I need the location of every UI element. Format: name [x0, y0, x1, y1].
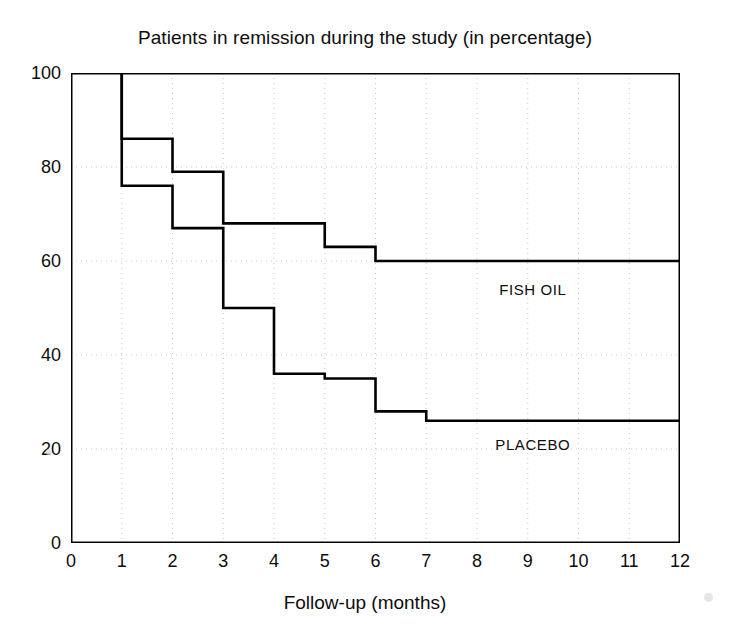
y-tick-label: 60: [11, 251, 61, 272]
x-tick-label: 8: [472, 551, 482, 572]
y-tick-label: 100: [11, 63, 61, 84]
series-label-fish-oil: FISH OIL: [499, 281, 566, 298]
x-tick-label: 11: [620, 551, 639, 572]
y-tick-label: 20: [11, 439, 61, 460]
x-tick-label: 5: [320, 551, 330, 572]
y-tick-label: 80: [11, 157, 61, 178]
series-line-placebo: [122, 73, 680, 421]
series-lines: [122, 73, 680, 421]
y-tick-label: 40: [11, 345, 61, 366]
plot-svg: [71, 73, 680, 543]
x-tick-label: 2: [167, 551, 177, 572]
scan-artifact-2: [46, 449, 52, 455]
x-tick-label: 0: [66, 551, 76, 572]
x-tick-label: 4: [269, 551, 279, 572]
gridlines: [71, 73, 680, 543]
x-tick-label: 9: [523, 551, 533, 572]
x-tick-label: 7: [421, 551, 431, 572]
plot-area: 020406080100 0123456789101112 FISH OILPL…: [71, 73, 680, 543]
chart-title: Patients in remission during the study (…: [0, 27, 730, 49]
x-tick-label: 12: [670, 551, 690, 572]
x-tick-label: 6: [370, 551, 380, 572]
chart-figure: Patients in remission during the study (…: [0, 0, 730, 639]
series-label-placebo: PLACEBO: [495, 436, 570, 453]
x-tick-label: 3: [218, 551, 228, 572]
x-tick-label: 1: [117, 551, 127, 572]
x-tick-label: 10: [568, 551, 588, 572]
scan-artifact: [704, 593, 713, 602]
y-tick-label: 0: [11, 533, 61, 554]
x-axis-label: Follow-up (months): [0, 592, 730, 614]
